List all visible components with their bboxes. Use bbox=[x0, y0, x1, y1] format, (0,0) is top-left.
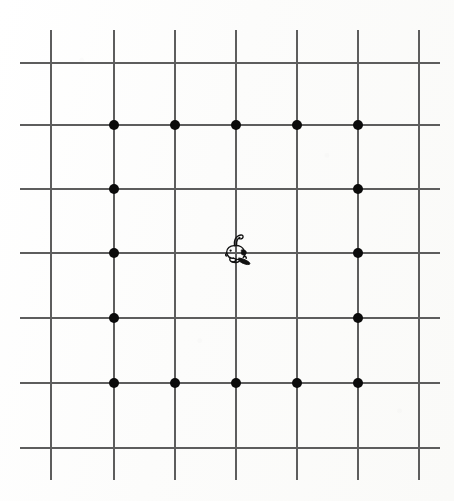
grid-dot bbox=[109, 120, 119, 130]
grid-dot bbox=[292, 120, 302, 130]
grid-dot bbox=[353, 184, 363, 194]
grid-line-horizontal bbox=[20, 382, 440, 384]
grid-figure bbox=[0, 0, 454, 501]
grid-dot bbox=[109, 248, 119, 258]
grid-line-vertical bbox=[174, 30, 176, 480]
grid-line-horizontal bbox=[20, 124, 440, 126]
page-canvas bbox=[0, 0, 454, 501]
grid-line-vertical bbox=[418, 30, 420, 480]
grid-line-horizontal bbox=[20, 447, 440, 449]
grid-dot bbox=[109, 184, 119, 194]
grid-line-vertical bbox=[235, 30, 237, 480]
grid-line-vertical bbox=[50, 30, 52, 480]
grid-dot bbox=[109, 313, 119, 323]
grid-line-vertical bbox=[296, 30, 298, 480]
grid-dot bbox=[353, 378, 363, 388]
grid-dot bbox=[231, 378, 241, 388]
grid-dot bbox=[292, 378, 302, 388]
grid-dot bbox=[353, 313, 363, 323]
grid-dot bbox=[353, 120, 363, 130]
grid-dot bbox=[170, 378, 180, 388]
grid-dot bbox=[170, 120, 180, 130]
grid-line-horizontal bbox=[20, 188, 440, 190]
grid-line-horizontal bbox=[20, 62, 440, 64]
grid-dot bbox=[109, 378, 119, 388]
grid-dot bbox=[231, 120, 241, 130]
grid-line-horizontal bbox=[20, 317, 440, 319]
grid-line-horizontal bbox=[20, 252, 440, 254]
grid-dot bbox=[353, 248, 363, 258]
